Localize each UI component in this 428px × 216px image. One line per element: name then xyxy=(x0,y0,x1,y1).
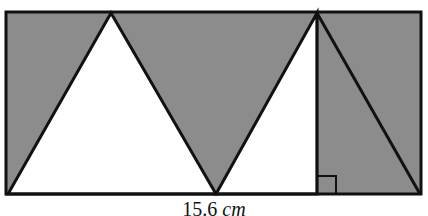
base-length-value: 15.6 xyxy=(182,198,217,216)
base-length-unit: cm xyxy=(222,198,245,216)
shaded-triangles-diagram xyxy=(0,0,428,216)
base-length-label: 15.6 cm xyxy=(0,199,428,216)
